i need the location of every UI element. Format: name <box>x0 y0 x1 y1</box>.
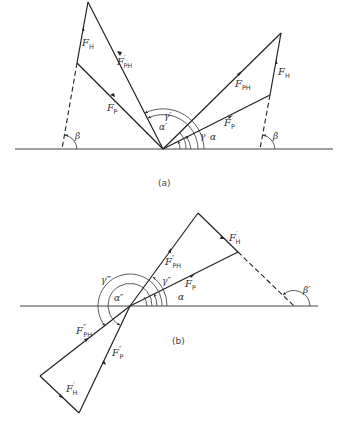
dashed-extension-right <box>260 95 270 149</box>
label-alpha-dprime: α″ <box>114 293 124 303</box>
label-fph-dprime: F″PH <box>164 254 181 270</box>
label-fh-prime-bottom: F′H <box>65 381 77 397</box>
arc-alpha <box>186 136 191 149</box>
arc-inner <box>180 133 186 149</box>
vector-diagram: FH F′PH F′P FPH FP FH β β γ′ α′ γ α (a) <box>0 0 338 424</box>
arc-alpha-b <box>154 294 157 306</box>
label-fph: FPH <box>234 78 251 92</box>
vector-fph-tprime <box>40 306 130 376</box>
label-beta-left: β <box>74 131 80 141</box>
dashed-extension-b <box>238 252 294 306</box>
panel-a: FH F′PH F′P FPH FP FH β β γ′ α′ γ α (a) <box>15 2 333 188</box>
vector-fph-prime <box>88 2 163 149</box>
vector-fp <box>163 95 270 149</box>
label-alpha: α <box>210 132 216 142</box>
caption-b: (b) <box>172 336 185 346</box>
arc-alpha-dprime <box>108 283 152 325</box>
label-beta-right: β <box>272 131 278 141</box>
arc-gamma <box>178 141 180 149</box>
label-beta-prime: β′ <box>302 285 310 295</box>
vector-fph-dprime <box>130 213 198 306</box>
label-fp: FP <box>223 117 235 131</box>
label-alpha-b: α <box>178 292 184 302</box>
label-gamma-prime: γ′ <box>164 111 171 121</box>
label-gamma-dprime: γ″ <box>162 276 171 286</box>
vector-fph <box>163 33 281 149</box>
label-fp-b: FP <box>184 278 196 292</box>
vector-fp-prime <box>77 63 163 149</box>
label-alpha-prime: α′ <box>159 122 167 132</box>
caption-a: (a) <box>158 178 171 188</box>
label-fh-left: FH <box>81 37 94 51</box>
arrow-fh-left-icon <box>82 27 85 31</box>
label-gamma-tprime: γ‴ <box>101 275 111 285</box>
label-fph-tprime: F‴PH <box>75 323 92 339</box>
arrow-fph-dprime-icon <box>168 248 171 253</box>
vector-fh-left <box>77 2 88 63</box>
label-fph-prime: F′PH <box>116 54 132 70</box>
label-fp-dprime: F″P <box>111 345 123 361</box>
panel-b: F″PH FP F′H β′ γ″ α γ‴ α″ F‴PH F″P F′H (… <box>20 213 318 413</box>
label-gamma: γ <box>200 131 206 141</box>
label-fh-right: FH <box>277 66 290 80</box>
